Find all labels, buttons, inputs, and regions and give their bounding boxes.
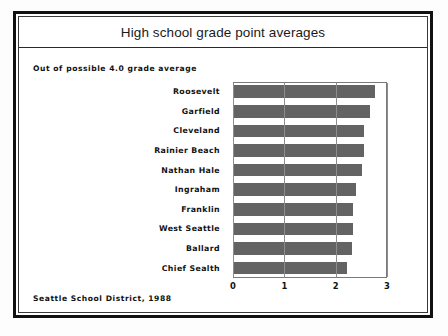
bar-track <box>233 239 387 259</box>
x-tick-label: 3 <box>384 281 390 291</box>
bar-category-label: West Seattle <box>19 224 226 233</box>
bar-rows: RooseveltGarfieldClevelandRainier BeachN… <box>19 82 427 278</box>
bar <box>233 183 356 196</box>
plot-area: RooseveltGarfieldClevelandRainier BeachN… <box>19 82 427 297</box>
bar-row: Ingraham <box>19 180 427 200</box>
bar-category-label: Chief Sealth <box>19 264 226 273</box>
bar-track <box>233 180 387 200</box>
bar <box>233 242 352 255</box>
x-tick-label: 2 <box>333 281 339 291</box>
chart-outer-frame: High school grade point averages Out of … <box>13 11 433 318</box>
bar-row: Franklin <box>19 200 427 220</box>
bar-row: Cleveland <box>19 121 427 141</box>
chart-body: Out of possible 4.0 grade average Roosev… <box>19 48 427 312</box>
source-footer: Seattle School District, 1988 <box>33 294 172 303</box>
bar-track <box>233 141 387 161</box>
bar <box>233 203 353 216</box>
bar-category-label: Cleveland <box>19 126 226 135</box>
chart-subtitle: Out of possible 4.0 grade average <box>33 64 197 73</box>
bar-track <box>233 82 387 102</box>
bar-row: Nathan Hale <box>19 160 427 180</box>
bar <box>233 85 375 98</box>
chart-title: High school grade point averages <box>121 25 325 40</box>
bar <box>233 262 347 275</box>
bar-row: Roosevelt <box>19 82 427 102</box>
bar-track <box>233 121 387 141</box>
bar <box>233 144 364 157</box>
x-tick-label: 0 <box>230 281 236 291</box>
bar-track <box>233 200 387 220</box>
bar-track <box>233 258 387 278</box>
bar-track <box>233 219 387 239</box>
bar-category-label: Ballard <box>19 244 226 253</box>
bar-row: West Seattle <box>19 219 427 239</box>
bar-category-label: Franklin <box>19 205 226 214</box>
bar-row: Ballard <box>19 239 427 259</box>
bar <box>233 164 362 177</box>
bar <box>233 223 353 236</box>
bar-category-label: Ingraham <box>19 185 226 194</box>
bar-category-label: Garfield <box>19 107 226 116</box>
bar <box>233 105 370 118</box>
page-background: High school grade point averages Out of … <box>0 0 448 336</box>
bar-category-label: Rainier Beach <box>19 146 226 155</box>
x-tick-label: 1 <box>281 281 287 291</box>
bar-row: Rainier Beach <box>19 141 427 161</box>
bar-row: Chief Sealth <box>19 258 427 278</box>
bar-track <box>233 102 387 122</box>
bar-category-label: Nathan Hale <box>19 166 226 175</box>
bar-track <box>233 160 387 180</box>
bar-row: Garfield <box>19 102 427 122</box>
bar <box>233 125 364 138</box>
title-band: High school grade point averages <box>19 17 427 48</box>
chart-inner-frame: High school grade point averages Out of … <box>18 16 428 313</box>
bar-category-label: Roosevelt <box>19 87 226 96</box>
x-axis-tick-labels: 0123 <box>233 281 387 295</box>
